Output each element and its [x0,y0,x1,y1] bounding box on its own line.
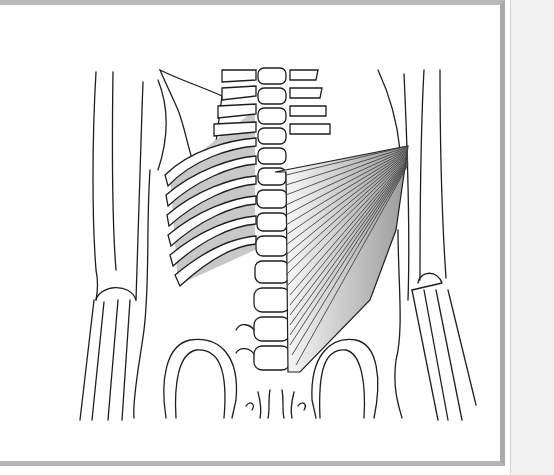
latissimus-dorsi [275,146,408,372]
torso-outline-right [395,230,402,418]
left-arm [80,72,166,420]
right-arm [378,70,476,420]
